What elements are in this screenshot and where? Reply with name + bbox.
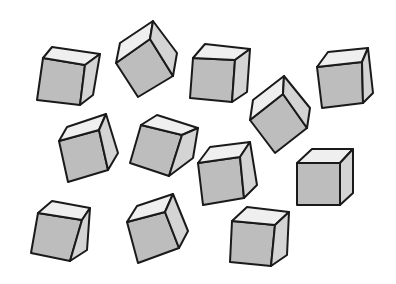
cube-2 [116, 21, 177, 97]
cube-1 [37, 47, 100, 105]
cube-7 [130, 115, 198, 176]
cube-6 [59, 114, 118, 182]
cube-front-face [190, 58, 235, 102]
cube-9 [297, 149, 353, 205]
cube-8 [198, 142, 257, 205]
cube-front-face [297, 163, 340, 205]
cube-4 [250, 76, 310, 153]
cube-front-face [230, 221, 275, 266]
cube-front-face [37, 58, 85, 105]
cube-11 [127, 194, 188, 263]
cube-scene [0, 0, 396, 284]
cube-side-face [362, 48, 373, 103]
cube-3 [190, 44, 250, 102]
cube-front-face [198, 157, 244, 205]
cubes-illustration [0, 0, 396, 284]
cube-5 [317, 48, 373, 108]
cube-12 [230, 207, 289, 266]
cube-front-face [317, 62, 363, 108]
cube-10 [31, 201, 90, 261]
